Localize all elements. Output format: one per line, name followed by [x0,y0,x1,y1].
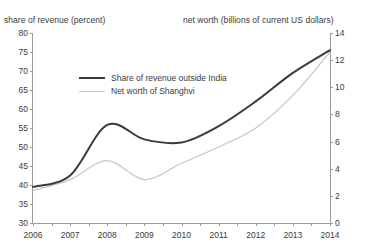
x-axis-tick-mark [330,223,331,226]
x-axis-minor-tick-mark [52,223,53,226]
x-axis-tick-label: 2013 [283,230,302,240]
x-axis-tick-mark [219,223,220,226]
y-axis-left-tick-label: 35 [19,199,28,209]
y-axis-right-tick-mark [330,87,333,88]
legend-line-swatch [79,91,105,92]
x-axis-tick-label: 2010 [172,230,191,240]
right-axis-spine [330,33,331,223]
x-axis-minor-tick-mark [274,223,275,226]
y-axis-left-tick-label: 40 [19,180,28,190]
x-axis-minor-tick-mark [200,223,201,226]
x-axis-minor-tick-mark [163,223,164,226]
y-axis-right-tick-label: 12 [335,55,344,65]
x-axis-tick-label: 2011 [209,230,227,240]
x-axis-minor-tick-mark [126,223,127,226]
y-axis-right-tick-label: 4 [335,164,340,174]
legend-item-label: Net worth of Shanghvi [111,86,195,96]
plot-area: 3035404550556065707580 02468101214 20062… [33,33,330,223]
y-axis-right-tick-mark [330,114,333,115]
y-axis-left-tick-label: 60 [19,104,28,114]
x-axis-tick-mark [293,223,294,226]
x-axis-tick-label: 2009 [135,230,154,240]
x-axis-tick-mark [144,223,145,226]
y-axis-left-tick-label: 70 [19,66,28,76]
y-axis-left-tick-label: 45 [19,161,28,171]
y-axis-right-tick-mark [330,33,333,34]
x-axis-tick-label: 2008 [98,230,117,240]
x-axis-tick-mark [70,223,71,226]
chart-container: share of revenue (percent) net worth (bi… [0,0,365,252]
y-axis-left-tick-label: 30 [19,218,28,228]
y-axis-left-tick-label: 75 [19,47,28,57]
y-axis-right-tick-label: 2 [335,191,340,201]
y-axis-right-tick-mark [330,196,333,197]
y-axis-left-tick-label: 55 [19,123,28,133]
y-axis-right-tick-mark [330,169,333,170]
legend-item-label: Share of revenue outside India [111,73,227,83]
left-axis-caption: share of revenue (percent) [4,15,105,25]
y-axis-right-tick-label: 10 [335,82,344,92]
y-axis-right-tick-mark [330,142,333,143]
x-axis-tick-mark [107,223,108,226]
y-axis-right-tick-label: 6 [335,137,340,147]
y-axis-right-tick-label: 14 [335,28,344,38]
x-axis-tick-mark [33,223,34,226]
chart-legend: Share of revenue outside IndiaNet worth … [79,73,227,96]
y-axis-left-tick-label: 65 [19,85,28,95]
x-axis-tick-label: 2007 [61,230,80,240]
y-axis-right-tick-mark [330,60,333,61]
x-axis-tick-mark [182,223,183,226]
legend-line-swatch [79,77,105,79]
y-axis-right-tick-label: 8 [335,109,340,119]
legend-item: Share of revenue outside India [79,73,227,83]
series-line-net-worth [33,50,330,187]
x-axis-tick-label: 2006 [24,230,43,240]
right-axis-caption: net worth (billions of current US dollar… [183,15,334,25]
series-lines [33,33,330,223]
x-axis-tick-mark [256,223,257,226]
y-axis-left-tick-label: 80 [19,28,28,38]
x-axis-minor-tick-mark [237,223,238,226]
y-axis-right-tick-label: 0 [335,218,340,228]
x-axis-minor-tick-mark [311,223,312,226]
x-axis-minor-tick-mark [89,223,90,226]
x-axis-tick-label: 2012 [246,230,265,240]
legend-item: Net worth of Shanghvi [79,86,227,96]
x-axis-tick-label: 2014 [321,230,340,240]
y-axis-left-tick-label: 50 [19,142,28,152]
